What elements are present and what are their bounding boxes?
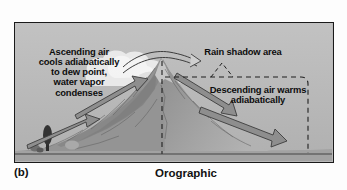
label-descending-air: Descending air warms adiabatically (191, 85, 325, 105)
label-rain-shadow-area: Rain shadow area (183, 47, 303, 57)
orographic-precipitation-figure: Ascending air cools adiabatically to dew… (0, 0, 347, 190)
figure-caption: Orographic (14, 167, 334, 179)
illustration-panel: Ascending air cools adiabatically to dew… (14, 22, 334, 163)
caption-row: (b) Orographic (14, 166, 334, 186)
label-ascending-air: Ascending air cools adiabatically to dew… (23, 47, 135, 98)
